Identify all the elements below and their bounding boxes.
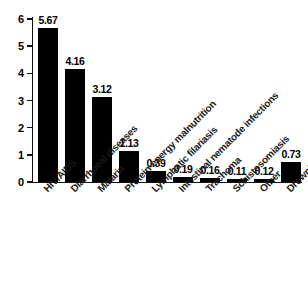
bar-value-label: 4.16 [65,56,84,67]
bar-chart: 0123456 5.674.163.121.130.390.190.160.11… [0,0,308,301]
y-axis-tick-label: 3 [18,95,24,106]
bar-value-label: 0.73 [281,149,300,160]
y-axis-tick-label: 0 [18,177,24,188]
bar [38,28,58,182]
bar-value-label: 5.67 [38,15,57,26]
y-axis-tick-label: 4 [18,68,24,79]
y-axis-tick-label: 1 [18,149,24,160]
y-axis-tick-label: 5 [18,41,24,52]
y-axis-tick-label: 2 [18,122,24,133]
y-axis-tick-label: 6 [18,14,24,25]
bar-value-label: 3.12 [92,84,111,95]
y-axis-ticks: 0123456 [0,0,32,182]
